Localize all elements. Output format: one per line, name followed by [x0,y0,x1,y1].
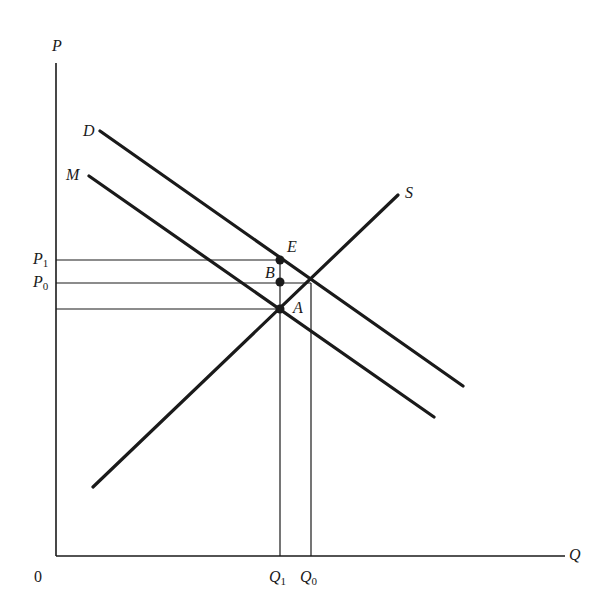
point-label-a: A [293,300,303,316]
quantity-label-q1: Q1 [269,569,286,587]
point-label-b: B [265,265,275,281]
x-axis-label: Q [569,547,581,563]
quantity-label-q0: Q0 [300,569,317,587]
point-e [276,256,285,265]
supply-demand-diagram [0,0,615,607]
price-label-p1: P1 [33,251,48,269]
point-b [276,278,285,287]
supply-curve-s [93,195,398,487]
curve-label-m: M [66,167,79,183]
curve-label-s: S [405,185,413,201]
point-label-e: E [287,239,297,255]
origin-label: 0 [34,569,42,585]
point-a [276,305,285,314]
y-axis-label: P [52,38,62,54]
price-label-p0: P0 [33,274,48,292]
curve-label-d: D [83,123,95,139]
